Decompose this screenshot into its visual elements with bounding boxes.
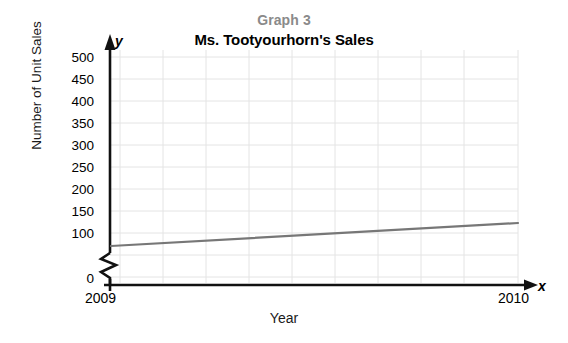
gridlines-horizontal: [110, 57, 518, 277]
chart-plot-svg: [0, 0, 568, 343]
data-series-unit-sales: [111, 223, 518, 246]
chart-container: Graph 3 Ms. Tootyourhorn's Sales Number …: [0, 0, 568, 343]
x-axis: [104, 279, 538, 291]
y-axis: [101, 34, 116, 285]
